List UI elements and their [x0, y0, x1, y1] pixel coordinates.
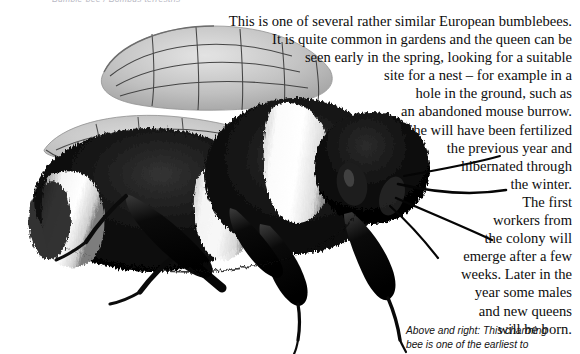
body-line: It is quite common in gardens and the qu… [220, 30, 572, 48]
body-line: hole in the ground, such as [220, 84, 572, 102]
body-line: The first [220, 193, 572, 211]
caption-line: bee is one of the earliest to [406, 338, 578, 352]
body-line: weeks. Later in the [220, 265, 572, 283]
body-line: year some males [220, 283, 572, 301]
body-line: and new queens [220, 302, 572, 320]
body-line: This is one of several rather similar Eu… [220, 12, 572, 30]
figure-caption: Above and right: This charming bee is on… [406, 324, 578, 351]
caption-line: Above and right: This charming [406, 324, 578, 338]
body-line: hibernated through [220, 157, 572, 175]
body-line: emerge after a few [220, 247, 572, 265]
body-line: the previous year and [220, 139, 572, 157]
body-copy: This is one of several rather similar Eu… [220, 12, 572, 338]
illustrated-page: Bumble-bee / Bombus terrestris [0, 0, 580, 354]
body-line: workers from [220, 211, 572, 229]
body-line: site for a nest – for example in a [220, 66, 572, 84]
body-line: She will have been fertilized [220, 121, 572, 139]
body-line: seen early in the spring, looking for a … [220, 48, 572, 66]
body-line: an abandoned mouse burrow. [220, 102, 572, 120]
body-line: the colony will [220, 229, 572, 247]
body-line: the winter. [220, 175, 572, 193]
